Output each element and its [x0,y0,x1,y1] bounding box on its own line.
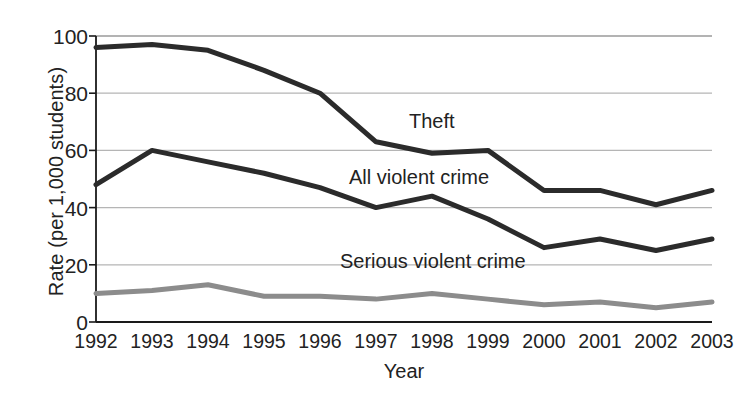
x-axis-tick-label: 1996 [298,330,341,353]
x-axis-tick-label: 1995 [242,330,285,353]
x-axis-title: Year [96,360,712,383]
x-axis-tick-label: 1994 [186,330,229,353]
x-axis-tick-label: 2001 [578,330,621,353]
x-axis-tick-label: 1998 [410,330,453,353]
series-label-all-violent-crime: All violent crime [349,166,489,189]
chart-figure: Rate (per 1,000 students) 100 80 60 40 2… [0,0,749,408]
series-label-theft: Theft [409,110,455,133]
gridlines [96,36,712,265]
x-axis-tick-label: 2002 [634,330,677,353]
series-label-serious-violent-crime: Serious violent crime [340,250,526,273]
x-axis-tick-label: 1999 [466,330,509,353]
x-axis-tick-label: 1993 [130,330,173,353]
series-line-serious-violent-crime [96,285,712,308]
x-axis-tick-label: 1992 [74,330,117,353]
x-axis-tick-label: 1997 [354,330,397,353]
y-axis-ticks [89,36,96,322]
x-axis-tick-label: 2003 [690,330,733,353]
x-axis-tick-label: 2000 [522,330,565,353]
